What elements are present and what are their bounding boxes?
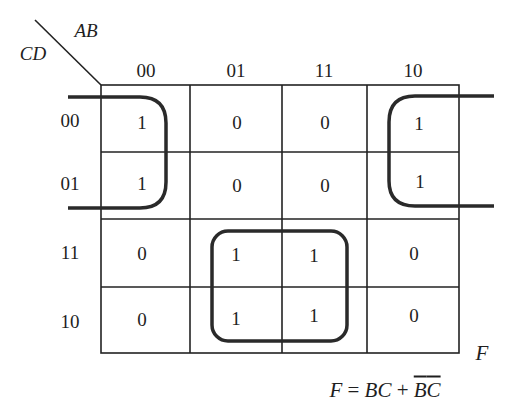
group-right-wrap	[389, 96, 494, 206]
function-label: F	[476, 343, 489, 364]
col-variable-label: AB	[74, 21, 97, 40]
equation-plus: +	[391, 378, 413, 402]
kmap-cell: 0	[409, 306, 419, 325]
col-label: 10	[404, 61, 423, 80]
kmap-graphics	[0, 0, 509, 410]
row-label: 01	[61, 174, 80, 193]
kmap-cell: 0	[320, 113, 330, 132]
col-label: 01	[227, 61, 246, 80]
row-variable-label: CD	[20, 44, 46, 63]
row-label: 10	[61, 312, 80, 331]
kmap-cell: 1	[309, 306, 319, 325]
kmap-cell: 1	[309, 246, 319, 265]
row-label: 11	[61, 243, 79, 262]
kmap-cell: 1	[137, 174, 147, 193]
equation-term-2-c-bar: C	[427, 378, 441, 402]
equation-lhs: F	[329, 378, 342, 402]
kmap-cell: 0	[320, 176, 330, 195]
equation: F = BC + BC	[329, 378, 440, 403]
col-label: 11	[315, 61, 333, 80]
row-label: 00	[61, 111, 80, 130]
kmap-cell: 0	[137, 244, 147, 263]
equation-term-1: BC	[365, 378, 392, 402]
kmap-cell: 1	[231, 309, 241, 328]
equation-equals: =	[342, 378, 364, 402]
kmap-cell: 0	[409, 244, 419, 263]
kmap-cell: 0	[137, 310, 147, 329]
kmap-cell: 1	[414, 114, 424, 133]
kmap-cell: 1	[231, 245, 241, 264]
kmap-cell: 1	[137, 113, 147, 132]
kmap-cell: 0	[232, 113, 242, 132]
equation-term-2-b-bar: B	[414, 378, 427, 402]
kmap-cell: 0	[232, 176, 242, 195]
kmap-grid	[101, 85, 459, 353]
kmap-cell: 1	[415, 172, 425, 191]
col-label: 00	[137, 61, 156, 80]
